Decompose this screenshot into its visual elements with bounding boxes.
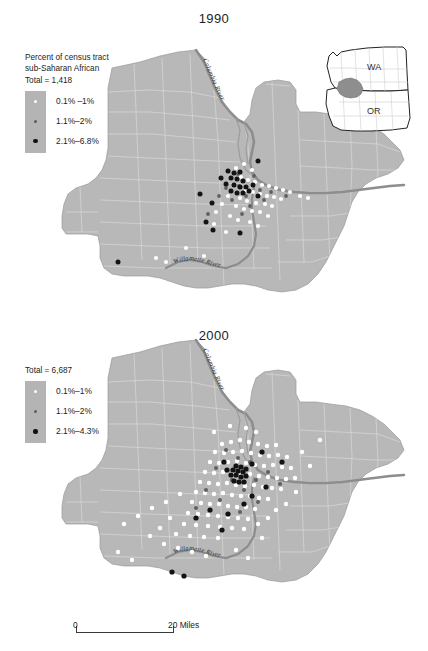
white-dot-icon bbox=[25, 390, 46, 393]
legend-row-class-2: 1.1%–2% bbox=[25, 401, 99, 421]
legend-label-class-2: 1.1%–2% bbox=[46, 406, 92, 417]
legend-label-class-3: 2.1%–4.3% bbox=[46, 426, 99, 437]
legend-label-class-2: 1.1%–2% bbox=[46, 116, 92, 127]
scale-bar-label-end: 20 Miles bbox=[168, 620, 199, 630]
scale-bar-line bbox=[76, 632, 174, 633]
legend-rows-1990: 0.1% –1% 1.1%–2% 2.1%–6.8% bbox=[25, 91, 109, 151]
gray-dot-icon bbox=[25, 410, 46, 413]
scale-bar-label-start: 0 bbox=[73, 620, 78, 630]
white-dot-icon bbox=[25, 100, 46, 103]
legend-swatch-wrap-1990: 0.1% –1% 1.1%–2% 2.1%–6.8% bbox=[25, 91, 109, 151]
legend-1990: Percent of census tract sub-Saharan Afri… bbox=[25, 52, 109, 151]
legend-total-1990: Total = 1,418 bbox=[25, 75, 109, 86]
gray-dot-icon bbox=[25, 120, 46, 123]
legend-rows-2000: 0.1%–1% 1.1%–2% 2.1%–4.3% bbox=[25, 381, 99, 441]
legend-2000: Total = 6,687 0.1%–1% 1.1%–2% 2.1 bbox=[25, 365, 99, 441]
map-panel-1990: 1990 bbox=[0, 0, 428, 320]
legend-label-class-1: 0.1% –1% bbox=[46, 96, 94, 107]
legend-row-class-1: 0.1% –1% bbox=[25, 91, 109, 111]
inset-label-wa: WA bbox=[367, 62, 381, 72]
legend-row-class-3: 2.1%–6.8% bbox=[25, 131, 109, 151]
legend-heading-line2: sub-Saharan African bbox=[25, 63, 109, 74]
black-dot-icon bbox=[25, 429, 46, 433]
metro-land-area-2000 bbox=[62, 340, 404, 582]
legend-swatch-wrap-2000: 0.1%–1% 1.1%–2% 2.1%–4.3% bbox=[25, 381, 99, 441]
legend-label-class-3: 2.1%–6.8% bbox=[46, 136, 99, 147]
legend-row-class-1: 0.1%–1% bbox=[25, 381, 99, 401]
inset-locator-map: WA OR bbox=[311, 42, 415, 140]
legend-heading-line1: Percent of census tract bbox=[25, 52, 109, 63]
legend-total-2000: Total = 6,687 bbox=[25, 365, 99, 376]
inset-label-or: OR bbox=[367, 106, 381, 116]
legend-label-class-1: 0.1%–1% bbox=[46, 386, 92, 397]
black-dot-icon bbox=[25, 139, 46, 143]
map-panel-2000: Columbia River Willamette River bbox=[0, 318, 428, 598]
scale-bar: 0 20 Miles bbox=[70, 620, 210, 642]
map-title-2000: 2000 bbox=[0, 328, 428, 343]
legend-row-class-2: 1.1%–2% bbox=[25, 111, 109, 131]
legend-row-class-3: 2.1%–4.3% bbox=[25, 421, 99, 441]
